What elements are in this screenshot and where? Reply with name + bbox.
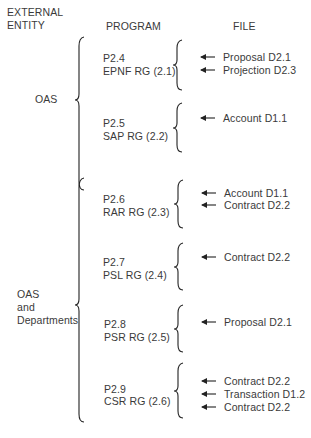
brace-p2-8 xyxy=(174,305,183,352)
diagram-lines xyxy=(0,0,311,438)
brace-entity-oas xyxy=(75,37,84,190)
brace-entity-oas-departments xyxy=(75,178,84,422)
brace-p2-4 xyxy=(173,40,182,90)
brace-p2-7 xyxy=(174,243,183,290)
brace-p2-9 xyxy=(174,363,183,418)
brace-p2-5 xyxy=(173,103,182,152)
brace-p2-6 xyxy=(174,180,183,228)
